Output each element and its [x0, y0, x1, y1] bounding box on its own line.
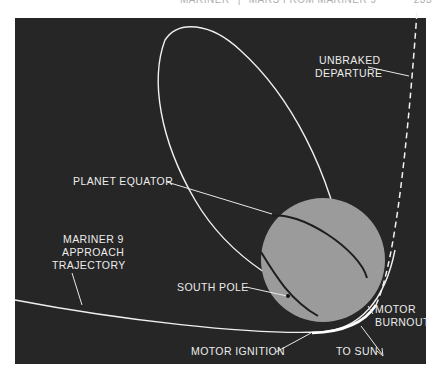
planet-disk [261, 198, 385, 322]
label-approach-3: TRAJECTORY [52, 259, 126, 271]
label-approach-1: MARINER 9 [63, 233, 124, 245]
label-unbraked-departure-1: UNBRAKED [319, 54, 381, 66]
label-south-pole: SOUTH POLE [177, 281, 249, 293]
label-unbraked-departure-2: DEPARTURE [315, 67, 382, 79]
label-planet-equator: PLANET EQUATOR [73, 175, 173, 187]
label-to-sun: TO SUN [336, 345, 378, 357]
label-motor-burnout-1: MOTOR [375, 303, 416, 315]
label-motor-ignition: MOTOR IGNITION [191, 345, 285, 357]
south-pole-marker [286, 294, 290, 298]
orbit-insertion-diagram: UNBRAKED DEPARTURE PLANET EQUATOR MARINE… [0, 0, 442, 372]
label-motor-burnout-2: BURNOUT [375, 316, 430, 328]
label-approach-2: APPROACH [62, 246, 124, 258]
